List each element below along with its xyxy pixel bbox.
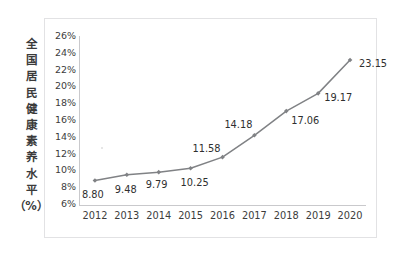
y-axis-tick-labels: 26%24%22%20%18%16%14%12%10%8%6% xyxy=(45,0,76,258)
y-axis-title-char: 素 xyxy=(26,133,37,149)
y-axis-title-char: 养 xyxy=(26,149,37,165)
y-axis-tick-label: 6% xyxy=(46,199,76,209)
y-axis-title-char: 平 xyxy=(26,182,37,198)
data-point-label: 17.06 xyxy=(291,115,319,126)
y-axis-title-char: 水 xyxy=(26,166,37,182)
y-axis-title-char: 全 xyxy=(26,36,37,52)
y-axis-title-char: 居 xyxy=(26,68,37,84)
y-axis-title-char: 健 xyxy=(26,101,37,117)
y-axis-tick-label: 8% xyxy=(46,182,76,192)
data-point-label: 9.79 xyxy=(146,179,168,190)
plot-area xyxy=(79,36,366,204)
y-axis-tick-label: 18% xyxy=(46,98,76,108)
data-point-label: 14.18 xyxy=(224,119,252,130)
y-axis-title-char: 民 xyxy=(26,85,37,101)
y-axis-tick-label: 14% xyxy=(46,132,76,142)
y-axis-tick-label: 24% xyxy=(46,48,76,58)
y-axis-tick-label: 20% xyxy=(46,81,76,91)
y-axis-title-char: （%） xyxy=(14,198,48,214)
y-axis-tick-label: 22% xyxy=(46,65,76,75)
chart-figure: 全 国 居 民 健 康 素 养 水 平 （%） 26%24%22%20%18%1… xyxy=(0,0,404,258)
x-axis-tick-labels: 201220132014201520162017201820192020 xyxy=(79,210,366,226)
data-point-label: 9.48 xyxy=(115,184,137,195)
y-axis-tick-label: 10% xyxy=(46,165,76,175)
y-axis-tick-label: 26% xyxy=(46,31,76,41)
data-point-label: 19.17 xyxy=(324,92,352,103)
y-axis-title-char: 国 xyxy=(26,52,37,68)
data-point-label: 23.15 xyxy=(359,58,387,69)
x-axis-tick-label: 2020 xyxy=(330,210,370,222)
x-axis-line xyxy=(79,205,366,206)
y-axis-title: 全 国 居 民 健 康 素 养 水 平 （%） xyxy=(16,36,46,212)
data-point-label: 8.80 xyxy=(82,189,104,200)
y-axis-title-char: 康 xyxy=(26,117,37,133)
y-axis-tick-label: 12% xyxy=(46,149,76,159)
y-axis-tick-label: 16% xyxy=(46,115,76,125)
scan-artifact-speck xyxy=(101,147,103,149)
data-point-label: 10.25 xyxy=(181,177,209,188)
data-point-label: 11.58 xyxy=(193,143,221,154)
